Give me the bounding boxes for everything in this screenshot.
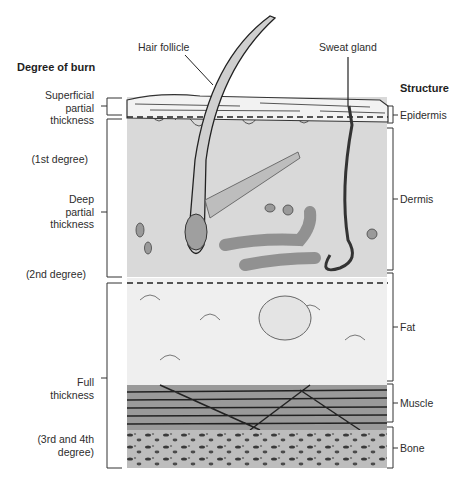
structure-epidermis-label: Epidermis bbox=[400, 109, 447, 122]
structure-fat-label: Fat bbox=[400, 321, 415, 334]
bone-layer bbox=[127, 430, 387, 468]
structure-muscle-label: Muscle bbox=[400, 397, 433, 410]
hair-follicle-label: Hair follicle bbox=[138, 41, 189, 54]
muscle-layer bbox=[127, 385, 387, 430]
structure-bone-label: Bone bbox=[400, 442, 425, 455]
degree-of-burn-heading: Degree of burn bbox=[17, 61, 95, 74]
second-degree-note: (2nd degree) bbox=[26, 268, 86, 281]
hair-follicle-leader bbox=[185, 55, 213, 85]
structure-heading: Structure bbox=[400, 82, 449, 95]
left-brackets bbox=[101, 98, 122, 468]
right-brackets bbox=[387, 106, 398, 468]
fat-layer bbox=[127, 278, 387, 385]
first-degree-note: (1st degree) bbox=[31, 153, 88, 166]
burn-superficial-partial-label: Superficial partial thickness bbox=[45, 89, 94, 127]
third-fourth-degree-note: (3rd and 4th degree) bbox=[37, 433, 94, 458]
structure-dermis-label: Dermis bbox=[400, 193, 433, 206]
burn-full-thickness-label: Full thickness bbox=[50, 376, 94, 401]
sweat-gland-label: Sweat gland bbox=[319, 41, 377, 54]
burn-deep-partial-label: Deep partial thickness bbox=[50, 193, 94, 231]
